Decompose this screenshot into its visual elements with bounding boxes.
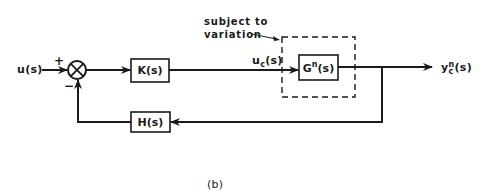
plant-suffix: (s): [318, 62, 335, 75]
plant-base: G: [303, 62, 312, 75]
plus-sign: +: [54, 55, 64, 67]
annotation-pointer-arrowhead: [273, 36, 280, 41]
plant-label: Gn(s): [299, 61, 338, 74]
feedback-branch-line: [171, 67, 382, 122]
minus-sign: −: [64, 80, 74, 92]
output-base: y: [441, 61, 448, 74]
figure-caption: (b): [207, 179, 223, 190]
annotation-line-2: variation: [204, 28, 268, 41]
feedback-label: H(s): [131, 117, 170, 128]
controller-label: K(s): [131, 65, 169, 76]
control-signal-base: u: [252, 54, 260, 67]
variation-annotation: subject to variation: [204, 15, 268, 41]
feedback-return-line: [78, 80, 131, 122]
annotation-line-1: subject to: [204, 15, 268, 28]
output-label: ync(s): [441, 61, 472, 75]
control-signal-label: uc(s): [252, 55, 283, 69]
output-suffix: (s): [454, 61, 472, 74]
control-signal-suffix: (s): [265, 54, 283, 67]
summing-junction-icon: [68, 61, 86, 79]
input-label: u(s): [17, 64, 43, 75]
